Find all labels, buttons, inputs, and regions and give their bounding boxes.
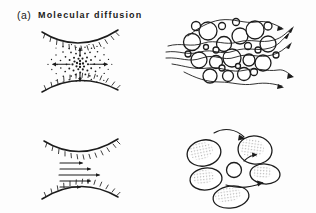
- flow-arrowheads: [277, 26, 294, 89]
- upper-pore-wall: [42, 30, 118, 43]
- panel-c: (c) Velocity variations within a pore: [0, 107, 158, 213]
- grain-mid-left: [189, 166, 223, 191]
- elliptical-grains: [185, 134, 281, 211]
- panel-a-illustration: [0, 0, 158, 106]
- grain-mid-right: [249, 163, 280, 185]
- grain-upper-left: [185, 137, 224, 170]
- lower-pore-wall: [42, 80, 118, 92]
- panel-d-illustration: [158, 107, 316, 213]
- grain-circles: [184, 19, 280, 84]
- panel-c-illustration: [0, 107, 158, 213]
- panel-b-illustration: [158, 0, 316, 106]
- dispersion-mechanisms-figure: (a) Molecular diffusion: [0, 0, 316, 213]
- lower-wall-hatching: [44, 179, 120, 197]
- panel-b: (b) Tortuosity of flow paths: [158, 0, 316, 106]
- curved-arrow-right: [226, 183, 262, 187]
- panel-d: (d) Velocity variations between pores: [158, 107, 316, 213]
- panel-a: (a) Molecular diffusion: [0, 0, 158, 106]
- lower-wall-hatching: [44, 73, 120, 90]
- grain-center-small: [227, 163, 242, 178]
- upper-pore-wall: [44, 139, 118, 152]
